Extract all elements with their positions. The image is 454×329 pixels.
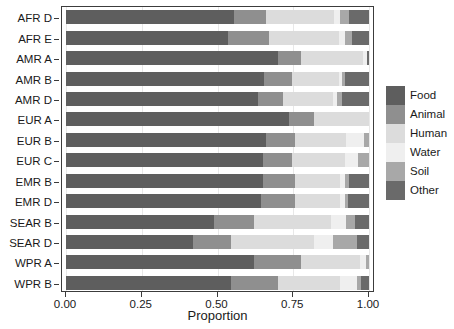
legend-swatch xyxy=(386,86,405,105)
bar-segment xyxy=(355,215,369,229)
y-tick-label: SEAR D xyxy=(9,236,52,250)
bar-segment xyxy=(331,215,346,229)
bar-segment xyxy=(66,215,214,229)
bar-segment xyxy=(66,92,258,106)
bar-segment xyxy=(295,194,340,208)
y-tick-mark xyxy=(54,59,59,60)
y-tick-label: AFR D xyxy=(18,11,53,25)
y-tick-label: AFR E xyxy=(18,32,52,46)
bar-segment xyxy=(292,72,339,86)
legend-swatch xyxy=(386,143,405,162)
bar-segment xyxy=(349,174,369,188)
bar-row xyxy=(62,153,374,167)
bar-segment xyxy=(258,92,282,106)
plot-area xyxy=(62,7,373,291)
bar-row xyxy=(62,194,374,208)
bar-segment xyxy=(314,235,332,249)
bar-segment xyxy=(234,10,266,24)
x-tick-mark xyxy=(65,292,66,297)
bar-segment xyxy=(357,235,369,249)
legend-swatch xyxy=(386,181,405,200)
bar-segment xyxy=(263,153,292,167)
y-tick-mark xyxy=(54,202,59,203)
bar-segment xyxy=(66,235,193,249)
bar-row xyxy=(62,276,374,290)
y-tick-label: AMR B xyxy=(16,73,52,87)
legend-label: Animal xyxy=(410,107,445,122)
bar-row xyxy=(62,235,374,249)
y-tick-label: WPR A xyxy=(15,256,52,270)
legend-item: Water xyxy=(386,143,454,162)
y-tick-mark xyxy=(54,80,59,81)
x-tick-mark xyxy=(141,292,142,297)
bar-row xyxy=(62,92,374,106)
legend-swatch xyxy=(386,162,405,181)
y-tick-mark xyxy=(54,141,59,142)
y-tick-mark xyxy=(54,161,59,162)
bar-segment xyxy=(349,10,369,24)
bar-segment xyxy=(66,174,263,188)
bar-row xyxy=(62,10,374,24)
bar-row xyxy=(62,31,374,45)
legend-label: Soil xyxy=(410,164,429,179)
bar-segment xyxy=(301,255,360,269)
bar-row xyxy=(62,174,374,188)
chart-legend: FoodAnimalHumanWaterSoilOther xyxy=(386,86,454,200)
legend-item: Other xyxy=(386,181,454,200)
y-tick-label: EMR B xyxy=(16,175,52,189)
bar-row xyxy=(62,112,374,126)
bar-segment xyxy=(66,10,234,24)
bar-segment xyxy=(66,194,261,208)
bar-segment xyxy=(193,235,231,249)
bar-segment xyxy=(231,276,278,290)
x-tick-mark xyxy=(292,292,293,297)
bar-segment xyxy=(231,235,314,249)
stacked-bar-chart: AFR DAFR EAMR AAMR BAMR DEUR AEUR BEUR C… xyxy=(0,0,454,329)
bar-segment xyxy=(346,133,364,147)
y-tick-label: EUR A xyxy=(17,113,52,127)
x-tick-mark xyxy=(368,292,369,297)
bar-segment xyxy=(266,133,295,147)
bar-segment xyxy=(66,276,231,290)
bar-segment xyxy=(283,92,333,106)
bar-segment xyxy=(301,51,363,65)
bar-row xyxy=(62,215,374,229)
bar-segment xyxy=(292,153,345,167)
bar-segment xyxy=(261,194,294,208)
bar-segment xyxy=(278,51,301,65)
legend-label: Other xyxy=(410,183,439,198)
y-tick-mark xyxy=(54,284,59,285)
bar-segment xyxy=(278,276,340,290)
y-tick-label: EUR B xyxy=(17,134,52,148)
y-tick-label: EMR D xyxy=(15,195,52,209)
legend-label: Human xyxy=(410,126,447,141)
plot-panel xyxy=(61,6,374,292)
y-tick-label: EUR C xyxy=(16,154,52,168)
bar-segment xyxy=(66,133,266,147)
bar-segment xyxy=(295,174,340,188)
bar-segment xyxy=(66,153,263,167)
bar-segment xyxy=(358,153,369,167)
y-axis: AFR DAFR EAMR AAMR BAMR DEUR AEUR BEUR C… xyxy=(0,8,60,290)
legend-item: Soil xyxy=(386,162,454,181)
bar-segment xyxy=(254,255,301,269)
bar-segment xyxy=(367,51,369,65)
bar-segment xyxy=(333,235,357,249)
bar-row xyxy=(62,255,374,269)
y-tick-label: AMR D xyxy=(15,93,52,107)
y-tick-label: AMR A xyxy=(16,52,52,66)
legend-item: Food xyxy=(386,86,454,105)
bar-segment xyxy=(366,255,369,269)
y-tick-label: WPR B xyxy=(14,277,52,291)
bar-segment xyxy=(361,276,369,290)
legend-swatch xyxy=(386,124,405,143)
bar-segment xyxy=(340,276,357,290)
bar-segment xyxy=(214,215,253,229)
bar-segment xyxy=(352,31,369,45)
y-tick-mark xyxy=(54,243,59,244)
legend-label: Water xyxy=(410,145,440,160)
bar-segment xyxy=(266,10,334,24)
bar-segment xyxy=(340,10,349,24)
legend-item: Animal xyxy=(386,105,454,124)
bar-segment xyxy=(263,174,295,188)
